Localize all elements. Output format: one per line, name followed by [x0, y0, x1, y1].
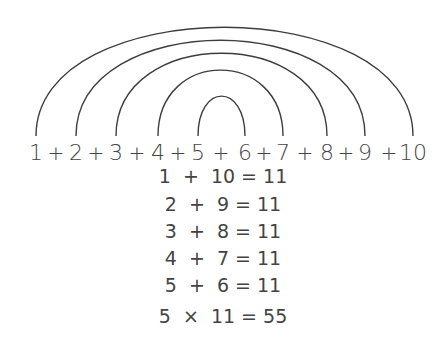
arc-2-9	[76, 40, 365, 136]
pair-equation: 5 + 6 = 11	[0, 273, 446, 297]
arc-5-6	[198, 96, 245, 136]
arc-1-10	[36, 27, 413, 136]
pair-equation: 1 + 10 = 11	[0, 164, 446, 188]
pair-equation: 3 + 8 = 11	[0, 219, 446, 243]
arc-4-7	[158, 70, 283, 136]
pair-equation: 4 + 7 = 11	[0, 246, 446, 270]
pair-equation: 2 + 9 = 11	[0, 192, 446, 216]
pairing-arcs	[0, 0, 446, 140]
result-equation: 5 × 11 = 55	[0, 304, 446, 328]
arc-3-8	[116, 53, 327, 136]
